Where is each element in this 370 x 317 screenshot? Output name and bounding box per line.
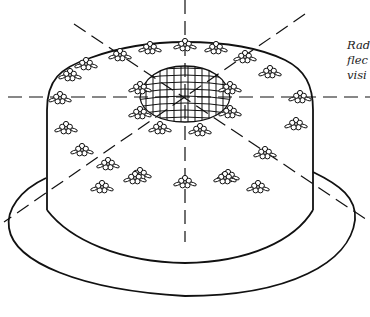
- side-caption: Rad flec visi: [347, 38, 370, 83]
- reference-lines: [4, 0, 370, 242]
- caption-line-2: flec: [347, 53, 370, 68]
- cake-diagram: [0, 0, 370, 317]
- caption-line-3: visi: [347, 68, 370, 83]
- outer-top-wreath: [48, 38, 312, 188]
- plate: [9, 172, 356, 296]
- caption-line-1: Rad: [347, 38, 370, 53]
